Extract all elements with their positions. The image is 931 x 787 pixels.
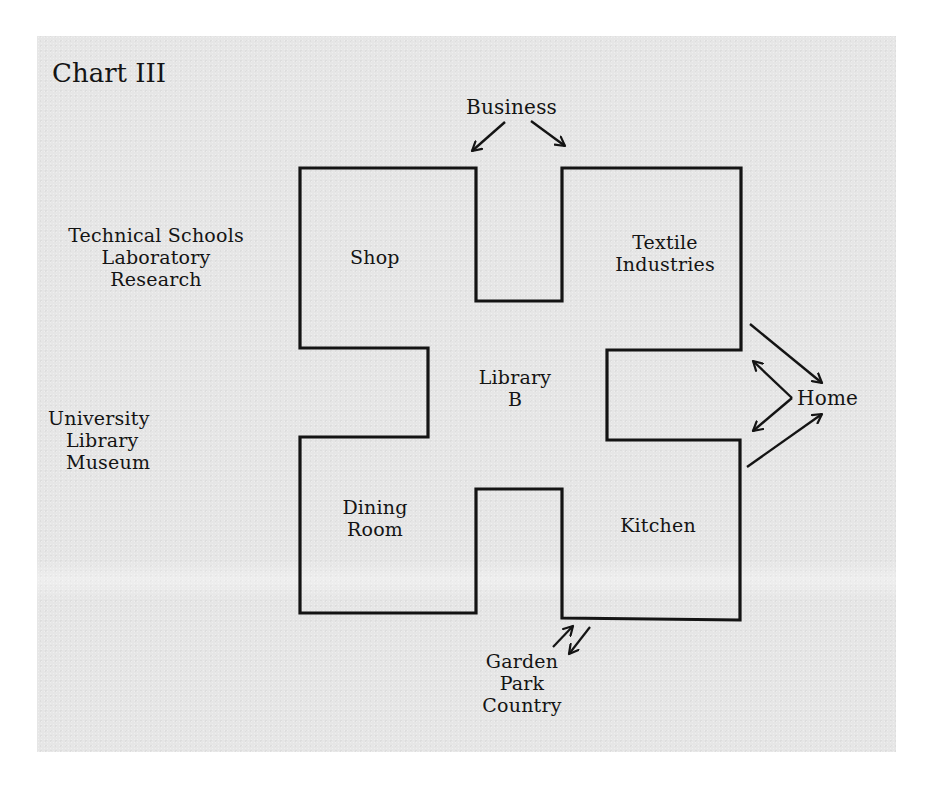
home-arrow-in-bottom [747, 414, 822, 467]
garden-park-country-group: Garden Park Country [462, 650, 582, 716]
technical-schools-group: Technical Schools Laboratory Research [50, 224, 262, 290]
country-label: Country [462, 694, 582, 716]
garden-label: Garden [462, 650, 582, 672]
home-arrow-in-top [750, 324, 822, 383]
room-textile-industries: Textile Industries [590, 231, 740, 275]
room-shop-label: Shop [350, 246, 400, 268]
research-label: Research [50, 268, 262, 290]
library-label: Library [48, 429, 150, 451]
university-label: University [48, 407, 150, 429]
technical-schools-label: Technical Schools [50, 224, 262, 246]
home-arrow-out-top [753, 361, 792, 398]
university-group: University Library Museum [48, 407, 150, 473]
library-center-label: Library [455, 366, 575, 388]
laboratory-label: Laboratory [50, 246, 262, 268]
garden-arrow-up [553, 626, 573, 647]
room-dining-label: Dining [320, 496, 430, 518]
home-label-text: Home [797, 387, 858, 409]
business-arrow-left [472, 122, 505, 151]
room-library-center: Library B [455, 366, 575, 410]
business-arrow-right [531, 121, 565, 146]
room-room-label: Room [320, 518, 430, 540]
home-arrow-out-bottom [753, 398, 792, 431]
home-label: Home [797, 387, 858, 409]
room-kitchen-label: Kitchen [598, 514, 718, 536]
business-label-text: Business [466, 96, 557, 118]
room-shop: Shop [350, 246, 400, 268]
business-label: Business [466, 96, 557, 118]
room-dining-room: Dining Room [320, 496, 430, 540]
museum-label: Museum [48, 451, 150, 473]
library-b-label: B [455, 388, 575, 410]
park-label: Park [462, 672, 582, 694]
room-industries-label: Industries [590, 253, 740, 275]
room-kitchen: Kitchen [598, 514, 718, 536]
chart-title: Chart III [52, 58, 166, 88]
room-textile-label: Textile [590, 231, 740, 253]
